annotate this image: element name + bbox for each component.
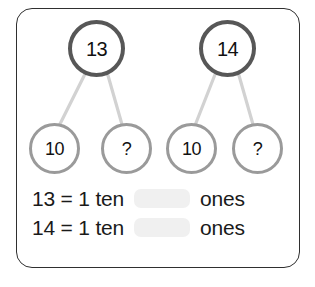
equation-14: 14 = 1 ten ones [32, 213, 282, 242]
equation-list: 13 = 1 ten ones 14 = 1 ten ones [32, 184, 282, 242]
equation-14-lead: 14 = 1 ten [32, 216, 124, 240]
bond-whole-13[interactable]: 13 [68, 20, 125, 77]
equation-14-blank[interactable] [134, 218, 190, 237]
equation-13-lead: 13 = 1 ten [32, 187, 124, 211]
bond-whole-14[interactable]: 14 [199, 20, 256, 77]
equation-13: 13 = 1 ten ones [32, 184, 282, 213]
equation-14-trail: ones [200, 216, 245, 240]
bond-part-ten-13[interactable]: 10 [29, 123, 80, 174]
bond-part-ten-14-label: 10 [182, 139, 201, 157]
equation-13-trail: ones [200, 187, 245, 211]
bond-part-ten-13-label: 10 [45, 139, 64, 157]
bond-part-unknown-13-label: ? [122, 139, 132, 157]
bond-part-unknown-13[interactable]: ? [101, 123, 152, 174]
bond-part-unknown-14[interactable]: ? [232, 123, 283, 174]
worksheet-canvas: 13 10 ? 14 10 ? 13 = 1 ten ones 14 = 1 t… [0, 0, 315, 287]
bond-part-ten-14[interactable]: 10 [166, 123, 217, 174]
bond-part-unknown-14-label: ? [253, 139, 263, 157]
equation-13-blank[interactable] [134, 189, 190, 208]
bond-whole-13-label: 13 [86, 38, 107, 58]
bond-whole-14-label: 14 [217, 38, 238, 58]
